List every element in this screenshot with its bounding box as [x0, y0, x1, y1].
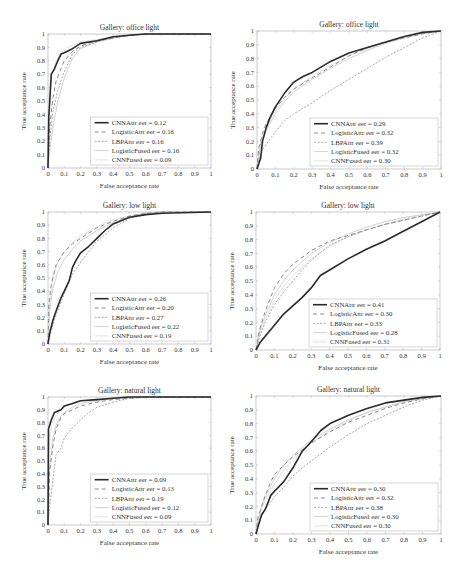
x-tick-label: 0.3	[93, 346, 101, 353]
x-tick-label: 0.8	[174, 527, 182, 534]
chart-title: Gallery: natural light	[98, 386, 162, 395]
y-axis-label: True acceptance rate	[229, 71, 237, 129]
y-tick-label: 0.9	[37, 221, 45, 228]
x-axis-label: False acceptance rate	[319, 183, 378, 191]
legend-entry: LBPAttr eer = 0.27	[112, 314, 165, 321]
legend-entry: CNNFused eer = 0.09	[112, 156, 172, 163]
y-tick-label: 0.9	[245, 406, 253, 413]
legend-entry: LBPAttr eer = 0.38	[331, 504, 384, 511]
y-tick-label: 0.9	[246, 41, 254, 48]
x-tick-label: 0.5	[344, 352, 352, 359]
x-tick-label: 0	[46, 170, 49, 177]
x-tick-label: 0.6	[142, 527, 151, 534]
x-tick-label: 0	[46, 527, 49, 534]
y-tick-label: 0.4	[245, 291, 254, 298]
chart-title: Gallery: low light	[321, 201, 375, 210]
y-tick-label: 0.5	[37, 457, 45, 464]
legend-entry: LogisticFused eer = 0.32	[331, 148, 399, 155]
y-tick-label: 0.2	[37, 137, 45, 144]
y-tick-label: 0.1	[246, 151, 254, 158]
x-tick-label: 0.7	[158, 170, 167, 177]
y-tick-label: 0.5	[245, 461, 253, 468]
x-tick-label: 0.6	[142, 346, 151, 353]
y-tick-label: 0.6	[37, 84, 46, 91]
x-tick-label: 0.7	[381, 536, 390, 543]
y-axis-label: True acceptance rate	[228, 436, 236, 494]
legend-entry: CNNAttr eer = 0.12	[112, 119, 167, 126]
x-tick-label: 0	[254, 352, 257, 359]
x-tick-label: 0.4	[109, 170, 118, 177]
x-tick-label: 0.9	[191, 527, 199, 534]
x-tick-label: 0.4	[109, 527, 118, 534]
y-tick-label: 0.9	[37, 44, 45, 51]
x-tick-label: 0.7	[158, 346, 167, 353]
y-tick-label: 0.4	[37, 111, 46, 118]
legend-entry: LogisticFused eer = 0.22	[112, 323, 180, 330]
legend-entry: CNNFused eer = 0.09	[112, 513, 172, 520]
roc-chart-2: Gallery: office light00.10.20.30.40.50.6…	[229, 20, 443, 191]
x-tick-label: 0.8	[399, 352, 407, 359]
y-tick-label: 0.7	[246, 69, 255, 76]
x-tick-label: 0.9	[191, 170, 199, 177]
y-tick-label: 0.8	[245, 420, 253, 427]
y-tick-label: 1	[251, 27, 254, 34]
x-tick-label: 0.1	[270, 352, 278, 359]
y-tick-label: 0.5	[245, 277, 253, 284]
y-tick-label: 0.3	[37, 301, 45, 308]
legend-entry: CNNAttr eer = 0.29	[331, 120, 386, 127]
x-tick-label: 0.3	[93, 170, 101, 177]
chart-title: Gallery: office light	[100, 23, 160, 32]
x-tick-label: 0.6	[363, 536, 372, 543]
x-tick-label: 0	[46, 346, 49, 353]
y-tick-label: 0.1	[37, 327, 45, 334]
x-tick-label: 1	[439, 171, 442, 178]
legend-entry: CNNAttr eer = 0.30	[331, 485, 386, 492]
y-tick-label: 0	[251, 165, 254, 172]
legend-entry: CNNAttr eer = 0.41	[330, 301, 384, 308]
legend-entry: LogisticAttr eer = 0.13	[112, 485, 175, 492]
x-tick-label: 1	[209, 346, 212, 353]
y-tick-label: 0.2	[37, 314, 45, 321]
x-tick-label: 0.2	[289, 536, 297, 543]
y-tick-label: 0.8	[37, 419, 45, 426]
legend: CNNAttr eer = 0.26LogisticAttr eer = 0.2…	[91, 293, 208, 341]
x-tick-label: 0.3	[307, 352, 315, 359]
y-tick-label: 1	[42, 208, 45, 215]
y-tick-label: 0.1	[245, 516, 253, 523]
y-tick-label: 1	[250, 208, 253, 215]
x-tick-label: 0.8	[174, 346, 182, 353]
y-tick-label: 0.3	[245, 305, 253, 312]
legend-entry: LBPAttr eer = 0.16	[112, 138, 165, 145]
y-tick-label: 0.1	[37, 151, 45, 158]
x-tick-label: 0.1	[271, 171, 279, 178]
x-tick-label: 0.7	[382, 171, 391, 178]
x-tick-label: 0.9	[419, 171, 427, 178]
legend: CNNAttr eer = 0.41LogisticAttr eer = 0.3…	[309, 299, 437, 347]
y-axis-label: True acceptance rate	[228, 252, 236, 310]
y-tick-label: 0.5	[37, 274, 45, 281]
y-tick-label: 0	[42, 340, 45, 347]
x-tick-label: 0.5	[125, 170, 133, 177]
y-tick-label: 0.7	[37, 248, 46, 255]
x-tick-label: 0.8	[174, 170, 182, 177]
legend-entry: LogisticFused eer = 0.12	[112, 504, 180, 511]
y-tick-label: 0.3	[246, 124, 254, 131]
legend: CNNAttr eer = 0.30LogisticAttr eer = 0.3…	[310, 483, 438, 531]
legend-entry: LogisticAttr eer = 0.32	[331, 494, 394, 501]
x-tick-label: 0.5	[345, 171, 353, 178]
x-tick-label: 0.9	[191, 346, 199, 353]
y-tick-label: 0.4	[245, 475, 254, 482]
x-tick-label: 1	[209, 170, 212, 177]
y-axis-label: True acceptance rate	[20, 249, 28, 307]
legend-entry: LBPAttr eer = 0.19	[112, 495, 165, 502]
x-tick-label: 0.2	[290, 171, 298, 178]
legend-entry: LBPAttr eer = 0.33	[330, 320, 383, 327]
x-tick-label: 0.2	[77, 527, 85, 534]
legend-entry: LogisticAttr eer = 0.30	[330, 310, 393, 317]
y-tick-label: 0.6	[37, 261, 46, 268]
x-axis-label: False acceptance rate	[100, 358, 159, 366]
y-tick-label: 0.8	[245, 236, 253, 243]
y-tick-label: 0	[42, 164, 45, 171]
y-tick-label: 0.1	[37, 508, 45, 515]
x-axis-label: False acceptance rate	[318, 364, 377, 372]
